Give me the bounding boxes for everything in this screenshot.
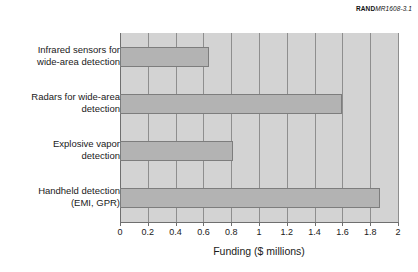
x-tick-mark bbox=[342, 222, 343, 226]
x-tick-mark bbox=[370, 222, 371, 226]
category-label-line: (EMI, GPR) bbox=[4, 197, 120, 209]
category-label: Infrared sensors forwide-area detection bbox=[4, 44, 120, 68]
bar bbox=[120, 188, 380, 208]
x-tick-label: 0.6 bbox=[188, 227, 218, 237]
bar bbox=[120, 141, 233, 161]
x-tick-mark bbox=[203, 222, 204, 226]
x-tick-mark bbox=[148, 222, 149, 226]
category-label: Handheld detection(EMI, GPR) bbox=[4, 185, 120, 209]
category-label-line: Handheld detection bbox=[4, 185, 120, 197]
category-label-line: Infrared sensors for bbox=[4, 44, 120, 56]
gridline bbox=[398, 33, 399, 222]
x-tick-label: 0.2 bbox=[133, 227, 163, 237]
category-label-line: wide-area detection bbox=[4, 56, 120, 68]
category-label: Radars for wide-areadetection bbox=[4, 91, 120, 115]
x-tick-mark bbox=[315, 222, 316, 226]
x-tick-mark bbox=[398, 222, 399, 226]
x-tick-mark bbox=[231, 222, 232, 226]
x-tick-label: 0.4 bbox=[161, 227, 191, 237]
bar bbox=[120, 47, 209, 67]
category-label-line: Radars for wide-area bbox=[4, 91, 120, 103]
x-tick-label: 1.8 bbox=[355, 227, 385, 237]
bar bbox=[120, 94, 342, 114]
category-label: Explosive vapordetection bbox=[4, 138, 120, 162]
x-tick-mark bbox=[176, 222, 177, 226]
x-tick-label: 0.8 bbox=[216, 227, 246, 237]
bar-chart: Funding ($ millions) 00.20.40.60.811.21.… bbox=[0, 0, 418, 272]
x-tick-label: 2 bbox=[383, 227, 413, 237]
x-tick-label: 1.6 bbox=[327, 227, 357, 237]
category-label-line: Explosive vapor bbox=[4, 138, 120, 150]
x-tick-label: 1 bbox=[244, 227, 274, 237]
x-tick-mark bbox=[259, 222, 260, 226]
x-tick-label: 1.4 bbox=[300, 227, 330, 237]
x-tick-mark bbox=[287, 222, 288, 226]
category-label-line: detection bbox=[4, 103, 120, 115]
x-tick-mark bbox=[120, 222, 121, 226]
x-axis-title: Funding ($ millions) bbox=[120, 245, 398, 257]
category-label-line: detection bbox=[4, 150, 120, 162]
x-tick-label: 1.2 bbox=[272, 227, 302, 237]
x-tick-label: 0 bbox=[105, 227, 135, 237]
